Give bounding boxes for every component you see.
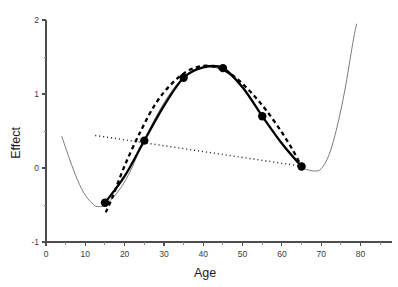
x-axis-label: Age	[194, 266, 216, 280]
x-tick-label: 80	[356, 249, 366, 259]
chart-figure: -1012 01020304050607080 Effect Age	[0, 0, 398, 287]
y-tick-label: -1	[31, 237, 39, 247]
x-tick-label: 10	[81, 249, 91, 259]
y-axis-label: Effect	[9, 127, 23, 159]
x-tick-label: 70	[316, 249, 326, 259]
y-tick-label: 0	[34, 163, 39, 173]
x-axis-ticks	[46, 242, 380, 246]
data-point-marker	[101, 199, 109, 207]
data-point-marker	[258, 112, 266, 120]
effect-vs-age-plot: -1012 01020304050607080 Effect Age	[0, 0, 398, 287]
x-axis-tick-labels: 01020304050607080	[44, 249, 366, 259]
series-observed-solid	[105, 66, 302, 203]
y-tick-label: 1	[34, 89, 39, 99]
axes-group: -1012 01020304050607080	[31, 15, 392, 259]
x-tick-label: 50	[238, 249, 248, 259]
data-point-marker	[140, 136, 148, 144]
x-tick-label: 0	[44, 249, 49, 259]
series-spline-fit-thin	[62, 24, 357, 207]
data-point-marker	[179, 74, 187, 82]
series-group	[62, 24, 357, 213]
series-model-dashed	[106, 66, 302, 213]
x-tick-label: 30	[159, 249, 169, 259]
y-axis-tick-labels: -1012	[31, 15, 39, 247]
data-point-marker	[219, 64, 227, 72]
x-tick-label: 60	[277, 249, 287, 259]
data-point-marker	[297, 162, 305, 170]
y-tick-label: 2	[34, 15, 39, 25]
x-tick-label: 40	[199, 249, 209, 259]
x-tick-label: 20	[120, 249, 130, 259]
y-axis-ticks	[42, 20, 46, 242]
